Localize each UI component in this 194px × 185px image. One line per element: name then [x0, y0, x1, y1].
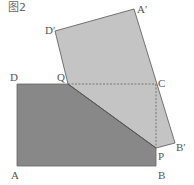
label-q: Q: [57, 72, 65, 83]
geometry-canvas: [0, 0, 194, 185]
label-p: P: [158, 151, 164, 162]
label-a: A: [11, 170, 19, 181]
label-b-prime: B′: [176, 142, 186, 153]
label-d: D: [10, 72, 18, 83]
label-b: B: [158, 170, 165, 181]
label-d-prime: D′: [45, 25, 55, 36]
label-c: C: [158, 78, 165, 89]
label-a-prime: A′: [137, 4, 147, 15]
figure-2: 图2 D′ A′ D Q C B′ P A B: [0, 0, 194, 185]
